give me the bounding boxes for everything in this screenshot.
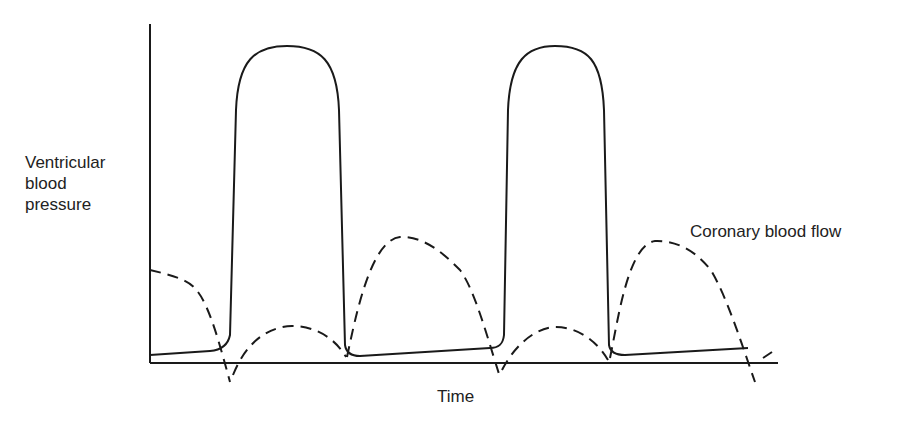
y-axis-label-line-3: pressure xyxy=(25,194,105,215)
x-axis-label: Time xyxy=(437,386,474,407)
coronary-flow-line xyxy=(150,237,772,382)
y-axis-label-line-2: blood xyxy=(25,173,105,194)
ventricular-pressure-line xyxy=(150,46,748,356)
coronary-flow-annotation: Coronary blood flow xyxy=(690,221,841,242)
chart-canvas xyxy=(0,0,897,424)
y-axis-label-line-1: Ventricular xyxy=(25,152,105,173)
y-axis-label: Ventricular blood pressure xyxy=(25,152,105,215)
